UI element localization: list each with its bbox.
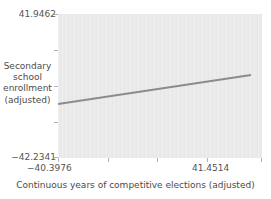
x-tick-mark (157, 158, 158, 162)
y-axis-title-line: enrollment (0, 83, 55, 94)
added-variable-plot-figure: 41.9462 −42.2341 −40.3976 41.4514 Second… (0, 0, 271, 199)
x-tick-mark (207, 158, 208, 162)
y-tick-mark (54, 50, 58, 51)
y-axis-title-line: school (0, 72, 55, 83)
x-tick-mark (108, 158, 109, 162)
x-axis-title: Continuous years of competitive election… (0, 180, 271, 191)
y-axis-min-tick-label: −42.2341 (11, 152, 56, 162)
plot-area-svg (58, 14, 262, 158)
y-tick-mark (54, 122, 58, 123)
x-axis-min-tick-label: −40.3976 (27, 163, 72, 173)
y-axis-title-line: (adjusted) (0, 95, 55, 106)
x-tick-mark (58, 158, 59, 162)
y-axis-max-tick-label: 41.9462 (19, 9, 56, 19)
regression-line (58, 75, 251, 104)
y-axis-title-line: Secondary (0, 61, 55, 72)
y-axis-title: Secondary school enrollment (adjusted) (0, 61, 55, 106)
x-tick-mark (261, 158, 262, 162)
x-axis-max-tick-label: 41.4514 (192, 163, 229, 173)
plot-panel (58, 14, 262, 158)
